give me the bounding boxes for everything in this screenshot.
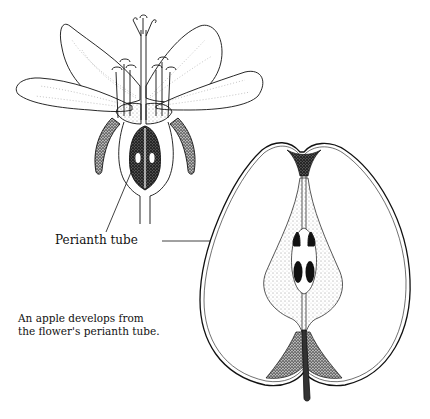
- sepal-left: [95, 118, 120, 174]
- ovule-left: [135, 153, 140, 163]
- figure-caption: An apple develops from the flower's peri…: [18, 312, 160, 338]
- illustration: [0, 0, 430, 419]
- apple-diagram: [200, 143, 410, 401]
- perianth-tube-label: Perianth tube: [55, 233, 138, 247]
- caption-line-1: An apple develops from: [18, 312, 160, 325]
- sepal-right: [170, 118, 195, 174]
- figure-canvas: Perianth tube An apple develops from the…: [0, 0, 430, 419]
- flower-diagram: [16, 15, 263, 232]
- leader-line-flower: [106, 170, 132, 232]
- style: [141, 30, 146, 120]
- ovule-right: [149, 153, 154, 163]
- stigma-left: [133, 18, 141, 36]
- seed-right: [306, 261, 315, 283]
- receptacle: [116, 103, 141, 124]
- stigma-right: [146, 20, 156, 36]
- seed-left: [294, 261, 303, 283]
- caption-line-2: the flower's perianth tube.: [18, 325, 160, 338]
